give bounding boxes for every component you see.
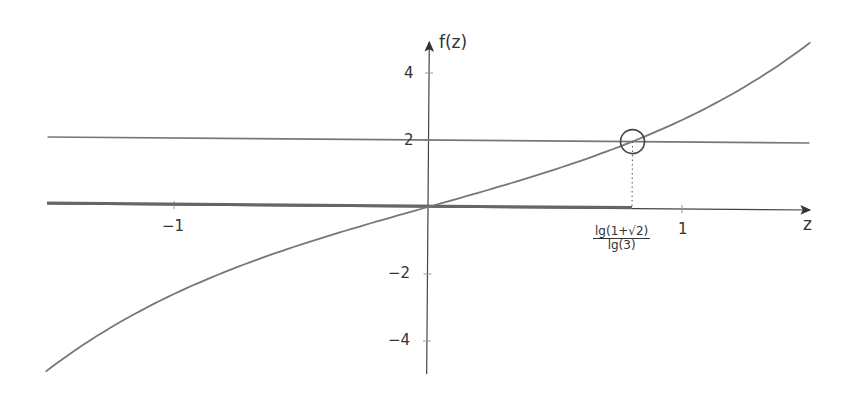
tick-label-y-neg4: −4 bbox=[388, 333, 410, 348]
fraction-denominator: lg(3) bbox=[593, 239, 650, 252]
tick-label-x-neg1: −1 bbox=[162, 219, 184, 234]
tick-label-y-4: 4 bbox=[404, 66, 414, 81]
tick-label-y-2: 2 bbox=[404, 133, 414, 148]
plot-area bbox=[0, 0, 857, 395]
intersection-x-label: lg(1+√2) lg(3) bbox=[593, 225, 650, 251]
y-axis-label: f(z) bbox=[439, 32, 467, 52]
tick-label-y-neg2: −2 bbox=[388, 266, 410, 281]
function-curve bbox=[46, 36, 811, 377]
x-axis-label: z bbox=[803, 214, 812, 234]
tick-label-x-1: 1 bbox=[678, 222, 688, 237]
highlight-segment-y0 bbox=[47, 203, 632, 208]
fraction-numerator: lg(1+√2) bbox=[593, 225, 650, 239]
dotted-drop-line bbox=[632, 142, 633, 209]
